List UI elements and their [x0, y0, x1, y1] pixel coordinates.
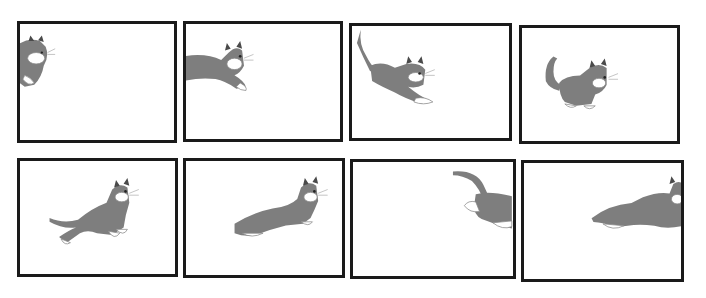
frame-1: Cat head and forepaws enter from left ed… — [17, 21, 177, 143]
cat-illustration — [353, 162, 513, 276]
frame-7: Cat hindquarters and tail exiting right … — [350, 159, 516, 279]
cat-illustration — [186, 24, 340, 139]
cat-illustration — [186, 161, 342, 275]
cat-illustration — [522, 28, 677, 141]
cat-illustration — [20, 161, 175, 274]
cat-illustration — [352, 26, 509, 138]
frame-4: Cat crouched, tail curled up — [519, 25, 680, 144]
cat-illustration — [524, 163, 681, 279]
frame-2: Cat front half leaping in from left — [183, 21, 343, 142]
frame-3: Cat stretched mid-run with tail raised — [349, 23, 512, 141]
frame-5: Cat leaping, front paws tucked — [17, 158, 178, 277]
frame-8: Cat stretched, head at right edge — [521, 160, 684, 282]
cat-illustration — [20, 24, 174, 140]
frame-6: Cat stretched in full gallop — [183, 158, 345, 278]
